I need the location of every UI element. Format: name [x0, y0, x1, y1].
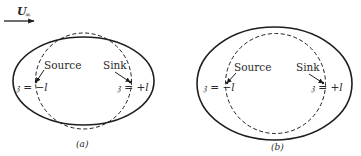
caption-b: (b)	[271, 142, 284, 152]
freestream-subscript: ∞	[25, 11, 31, 19]
sink-position-a: 𝔷 = +l	[117, 81, 149, 93]
diagram-figure: U ∞ Source 𝔷 = −l Sink 𝔷 = +l (a) Source…	[0, 0, 361, 156]
panel-b: Source 𝔷 = −l Sink 𝔷 = +l (b)	[197, 27, 352, 152]
source-label-a: Source	[44, 59, 81, 71]
sink-position-b: 𝔷 = +l	[311, 81, 343, 93]
source-position-b: 𝔷 = −l	[203, 81, 235, 93]
sink-label-a: Sink	[103, 59, 127, 71]
caption-a: (a)	[76, 139, 89, 149]
freestream-indicator: U ∞	[4, 5, 34, 21]
panel-a: Source 𝔷 = −l Sink 𝔷 = +l (a)	[13, 33, 154, 149]
source-label-b: Source	[234, 61, 271, 73]
source-position-a: 𝔷 = −l	[16, 81, 48, 93]
sink-label-b: Sink	[296, 61, 320, 73]
